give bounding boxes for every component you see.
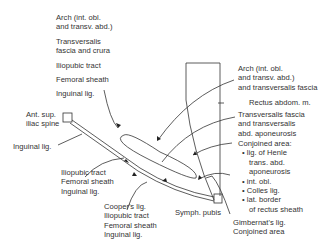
label-asis: Ant. sup. iliac spine [26,110,59,129]
label-inguinal-top: Inguinal lig. [56,89,94,98]
label-gimbernat: Gimbernat's lig. Conjoined area [233,218,286,237]
label-low-group: Cooper's lig. Iliopubic tract Femoral sh… [104,202,157,240]
label-arch-right: Arch (int. obl. and transv. abd.) and tr… [238,64,317,92]
label-rectus: Rectus abdom. m. [249,98,311,107]
symph-pubis-box [214,194,222,203]
label-mid-group: Iliopubic tract Femoral sheath Inguinal … [61,168,114,196]
label-conjoined-area: Conjoined area: • lig. of Henle trans. a… [238,139,303,214]
label-transversalis-left: Transversalis fascia and crura [56,37,110,56]
label-arch-left: Arch (int. obl. and transv. abd.) [56,13,112,32]
hesselbach-ellipse [120,135,196,179]
label-inguinal-lig: Inguinal lig. [13,142,51,151]
label-iliopubic-left: Iliopubic tract [56,61,101,70]
label-femoral-left: Femoral sheath [56,75,109,84]
label-transversalis-right: Transversalis fascia and transversalis a… [238,110,305,138]
label-symph-pubis: Symph. pubis [175,208,221,217]
asis-box [63,113,72,122]
